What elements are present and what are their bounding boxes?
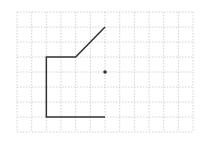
grid-diagram xyxy=(0,0,204,143)
center-point xyxy=(103,70,107,74)
